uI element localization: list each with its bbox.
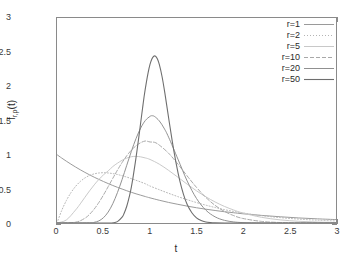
x-tick-label: 2.5 xyxy=(284,227,297,236)
y-axis-label-subscript: r,ρ xyxy=(11,109,18,117)
legend-swatch xyxy=(304,20,334,29)
y-tick-mark-right xyxy=(332,224,337,225)
legend-item[interactable]: r=2 xyxy=(258,30,334,41)
x-tick-label: 0 xyxy=(53,227,58,236)
x-tick-mark-top xyxy=(337,17,338,22)
legend-swatch xyxy=(304,75,334,84)
y-tick-mark xyxy=(56,224,61,225)
legend-item[interactable]: r=1 xyxy=(258,19,334,30)
legend-item[interactable]: r=10 xyxy=(258,52,334,63)
curve-r-20 xyxy=(57,116,336,223)
chart-figure: 00.511.522.53 00.511.522.53 t fr,ρ(t) r=… xyxy=(0,0,352,262)
legend: r=1r=2r=5r=10r=20r=50 xyxy=(258,19,334,85)
legend-swatch xyxy=(304,31,334,40)
legend-label: r=5 xyxy=(287,42,300,51)
legend-label: r=20 xyxy=(282,64,300,73)
legend-label: r=50 xyxy=(282,75,300,84)
x-tick-label: 2 xyxy=(241,227,246,236)
x-tick-mark xyxy=(337,219,338,224)
x-tick-label: 1 xyxy=(147,227,152,236)
y-axis-label: fr,ρ(t) xyxy=(6,80,18,140)
y-tick-label: 1 xyxy=(6,151,11,160)
legend-swatch xyxy=(304,42,334,51)
legend-label: r=1 xyxy=(287,20,300,29)
y-tick-label: 2.5 xyxy=(0,47,11,56)
legend-label: r=10 xyxy=(282,53,300,62)
y-tick-label: 0.5 xyxy=(0,185,11,194)
x-tick-label: 3 xyxy=(334,227,339,236)
legend-swatch xyxy=(304,64,334,73)
legend-label: r=2 xyxy=(287,31,300,40)
curve-r-10 xyxy=(57,141,336,223)
x-tick-label: 0.5 xyxy=(97,227,110,236)
legend-swatch xyxy=(304,53,334,62)
legend-item[interactable]: r=5 xyxy=(258,41,334,52)
legend-item[interactable]: r=50 xyxy=(258,74,334,85)
y-tick-label: 3 xyxy=(6,13,11,22)
y-axis-label-main: f xyxy=(6,117,17,120)
y-axis-label-arg: (t) xyxy=(6,100,17,109)
x-tick-label: 1.5 xyxy=(190,227,203,236)
curve-r-5 xyxy=(57,156,336,223)
y-tick-label: 0 xyxy=(6,220,11,229)
legend-item[interactable]: r=20 xyxy=(258,63,334,74)
x-axis-label: t xyxy=(0,243,352,254)
